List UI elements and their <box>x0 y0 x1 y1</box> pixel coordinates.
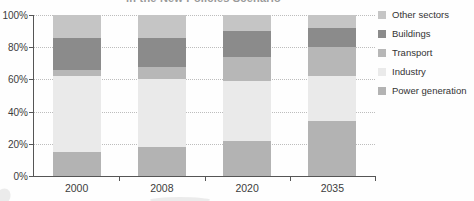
legend-swatch-other <box>378 11 386 19</box>
legend: Other sectorsBuildingsTransportIndustryP… <box>378 9 466 104</box>
legend-swatch-transport <box>378 49 386 57</box>
x-axis-tick <box>290 176 291 181</box>
segment-2000-other <box>53 15 101 38</box>
y-axis-label-80: 80% <box>0 42 28 53</box>
legend-swatch-buildings <box>378 30 386 38</box>
y-axis-tick <box>29 47 34 48</box>
x-axis-tick <box>205 176 206 181</box>
y-axis-label-40: 40% <box>0 106 28 117</box>
legend-swatch-power <box>378 87 386 95</box>
chart-page: in the New Policies Scenario 20002008202… <box>0 0 474 201</box>
segment-2035-industry <box>308 76 356 121</box>
legend-label-transport: Transport <box>392 47 432 58</box>
legend-label-other: Other sectors <box>392 9 449 20</box>
legend-item-transport: Transport <box>378 47 466 58</box>
x-axis-tick <box>119 176 120 181</box>
legend-item-buildings: Buildings <box>378 28 466 39</box>
legend-label-power: Power generation <box>392 85 466 96</box>
x-axis-end-tick <box>375 176 376 181</box>
stacked-bar-2000 <box>53 15 101 176</box>
y-axis-tick <box>29 79 34 80</box>
segment-2000-buildings <box>53 38 101 70</box>
y-axis-label-0: 0% <box>0 171 28 182</box>
segment-2008-buildings <box>138 38 186 67</box>
chart-title-clipped: in the New Policies Scenario <box>33 0 374 4</box>
legend-item-power: Power generation <box>378 85 466 96</box>
segment-2020-industry <box>223 81 271 141</box>
segment-2035-buildings <box>308 28 356 47</box>
segment-2008-other <box>138 15 186 38</box>
segment-2020-buildings <box>223 31 271 57</box>
x-axis-label-2000: 2000 <box>47 182 107 194</box>
y-axis-tick <box>29 15 34 16</box>
x-axis-label-2008: 2008 <box>132 182 192 194</box>
segment-2008-power <box>138 147 186 176</box>
x-axis-label-2020: 2020 <box>217 182 277 194</box>
segment-2008-industry <box>138 79 186 147</box>
legend-label-buildings: Buildings <box>392 28 431 39</box>
scan-artifact <box>0 186 14 201</box>
y-axis-tick <box>29 176 34 177</box>
y-axis-label-20: 20% <box>0 138 28 149</box>
legend-swatch-industry <box>378 68 386 76</box>
y-axis-tick <box>29 112 34 113</box>
legend-item-other: Other sectors <box>378 9 466 20</box>
stacked-bar-2008 <box>138 15 186 176</box>
plot-area: 2000200820202035 <box>33 15 375 177</box>
stacked-bar-2020 <box>223 15 271 176</box>
legend-item-industry: Industry <box>378 66 466 77</box>
segment-2035-power <box>308 121 356 176</box>
legend-label-industry: Industry <box>392 66 426 77</box>
y-axis-label-100: 100% <box>0 10 28 21</box>
y-axis-label-60: 60% <box>0 74 28 85</box>
x-axis-label-2035: 2035 <box>302 182 362 194</box>
segment-2020-power <box>223 141 271 176</box>
segment-2020-other <box>223 15 271 31</box>
segment-2000-industry <box>53 76 101 152</box>
segment-2000-power <box>53 152 101 176</box>
stacked-bar-2035 <box>308 15 356 176</box>
segment-2020-transport <box>223 57 271 81</box>
segment-2035-transport <box>308 47 356 76</box>
segment-2008-transport <box>138 67 186 80</box>
scan-artifact <box>150 197 210 201</box>
segment-2035-other <box>308 15 356 28</box>
y-axis-tick <box>29 144 34 145</box>
segment-2000-transport <box>53 70 101 76</box>
